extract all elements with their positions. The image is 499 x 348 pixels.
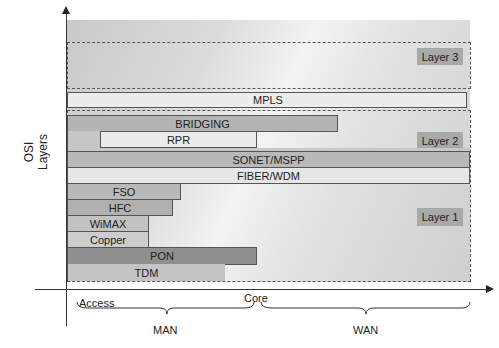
y-axis-label: OSI Layers <box>22 122 36 182</box>
region-label-man: MAN <box>153 324 177 336</box>
x-label-access: Access <box>79 297 114 309</box>
x-label-core: Core <box>244 292 268 304</box>
region-label-wan: WAN <box>353 324 378 336</box>
wan-brace-icon <box>261 302 470 314</box>
y-axis-arrow-icon <box>62 6 70 14</box>
x-axis-arrow-icon <box>486 285 494 293</box>
